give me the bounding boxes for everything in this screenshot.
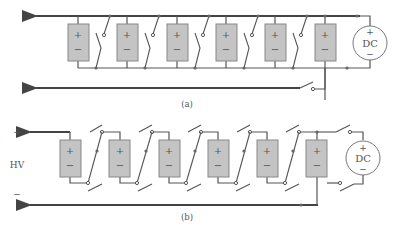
cell-a-6-plus: + <box>321 29 329 40</box>
dc-b-minus: − <box>359 164 367 174</box>
cell-a-1-minus: − <box>74 44 82 55</box>
cell-a-1 <box>68 16 89 68</box>
cell-b-6-minus: − <box>313 160 321 171</box>
dc-a-minus: − <box>366 49 374 59</box>
cell-a-3-plus: + <box>173 29 181 40</box>
dc-b-label: DC <box>355 153 371 164</box>
dc-a-label: DC <box>362 38 378 49</box>
cell-b-2-minus: − <box>116 160 124 171</box>
cell-b-5-plus: + <box>263 145 271 156</box>
dc-b-plus: + <box>359 143 367 153</box>
hv-label: HV <box>10 160 25 170</box>
cell-b-4 <box>201 132 236 183</box>
cell-a-3 <box>167 16 188 68</box>
cell-b-2-plus: + <box>116 145 124 156</box>
cell-b-3-plus: + <box>165 145 173 156</box>
cell-a-4-plus: + <box>222 29 230 40</box>
cell-b-1-minus: − <box>66 160 74 171</box>
panel-a: + − + − + − + − + − + − <box>36 14 387 109</box>
cell-a-1-plus: + <box>74 29 82 40</box>
hv-plus: + <box>13 127 21 137</box>
cell-b-1 <box>60 132 88 183</box>
cell-b-6-plus: + <box>313 145 321 156</box>
cell-b-4-plus: + <box>214 145 222 156</box>
cell-a-6-minus: − <box>321 44 329 55</box>
cell-b-3 <box>152 132 186 183</box>
cell-a-3-minus: − <box>173 44 181 55</box>
dc-source-b: + DC − <box>346 141 380 175</box>
cell-a-2 <box>117 16 138 68</box>
cell-a-5 <box>265 16 286 68</box>
panel-b-label: (b) <box>181 212 193 222</box>
cell-a-2-minus: − <box>123 44 131 55</box>
cell-b-4-minus: − <box>214 160 222 171</box>
cell-b-1-plus: + <box>66 145 74 156</box>
cell-b-3-minus: − <box>165 160 173 171</box>
dc-a-plus: + <box>366 27 374 37</box>
cell-b-5-minus: − <box>263 160 271 171</box>
panel-a-label: (a) <box>181 99 193 109</box>
cell-a-4 <box>216 16 237 68</box>
panel-b: + HV − + − + <box>10 125 380 222</box>
cell-a-5-minus: − <box>271 44 279 55</box>
cell-a-4-minus: − <box>222 44 230 55</box>
cell-a-2-plus: + <box>123 29 131 40</box>
cell-b-2 <box>102 132 137 183</box>
circuit-diagram: + − + − + − + − + − + − <box>0 0 396 234</box>
cell-b-5 <box>250 132 285 183</box>
cell-a-5-plus: + <box>271 29 279 40</box>
hv-minus: − <box>13 189 21 199</box>
dc-source-a: + DC − <box>350 16 387 68</box>
